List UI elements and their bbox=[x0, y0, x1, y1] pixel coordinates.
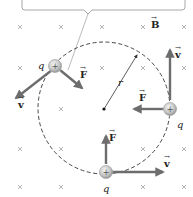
field-x-icon bbox=[18, 25, 22, 29]
plus-sign-icon: + bbox=[103, 168, 110, 177]
field-x-icon bbox=[100, 66, 104, 70]
field-x-icon bbox=[182, 185, 186, 189]
field-x-icon bbox=[100, 25, 104, 29]
field-x-icon bbox=[141, 185, 145, 189]
charge-bottom: + bbox=[98, 136, 163, 180]
field-x-icon bbox=[141, 66, 145, 70]
cyclotron-motion-diagram: + + + →B r q →F →v →v →F q →F →v q bbox=[0, 0, 193, 197]
velocity-label-bottom: →v bbox=[164, 159, 170, 169]
charge-label-top-left: q bbox=[38, 61, 44, 71]
field-x-icon bbox=[59, 25, 63, 29]
field-x-icon bbox=[18, 147, 22, 151]
field-x-icon bbox=[59, 185, 63, 189]
field-x-icon bbox=[18, 66, 22, 70]
field-x-icon bbox=[59, 107, 63, 111]
radius-label: r bbox=[118, 78, 123, 88]
force-label-right: →F bbox=[139, 93, 146, 103]
plus-sign-icon: + bbox=[52, 62, 59, 71]
charge-right: + bbox=[134, 50, 178, 117]
callout-box bbox=[22, 0, 185, 70]
force-label-bottom: →F bbox=[109, 133, 116, 143]
magnetic-field-markers bbox=[18, 25, 186, 189]
force-label-top-left: →F bbox=[80, 70, 87, 80]
field-x-icon bbox=[182, 147, 186, 151]
field-x-icon bbox=[182, 25, 186, 29]
callout-pointer-line bbox=[68, 14, 88, 70]
charge-top-left: + bbox=[16, 58, 82, 98]
field-x-icon bbox=[59, 147, 63, 151]
plus-sign-icon: + bbox=[167, 105, 174, 114]
field-x-icon bbox=[141, 25, 145, 29]
field-x-icon bbox=[141, 147, 145, 151]
velocity-label-top-left: →v bbox=[18, 100, 24, 110]
force-arrow-top-left bbox=[60, 70, 82, 88]
field-x-icon bbox=[182, 66, 186, 70]
charge-label-right: q bbox=[177, 120, 183, 130]
field-x-icon bbox=[18, 185, 22, 189]
velocity-label-right: →v bbox=[175, 50, 181, 60]
field-label-B: →B bbox=[151, 20, 159, 30]
charge-label-bottom: q bbox=[103, 184, 109, 194]
